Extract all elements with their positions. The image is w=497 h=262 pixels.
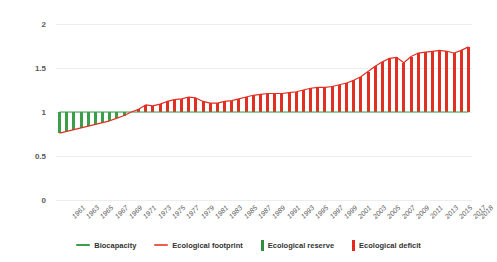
x-axis-tick-label: 1983 [228, 204, 244, 220]
x-axis-tick-label: 1991 [285, 204, 301, 220]
y-axis-tick-label: 0 [42, 196, 46, 205]
plot-area [56, 24, 472, 200]
x-axis-tick-label: 1999 [343, 204, 359, 220]
x-axis-tick-label: 1985 [242, 204, 258, 220]
chart-legend: BiocapacityEcological footprintEcologica… [0, 236, 497, 254]
y-axis-tick-label: 1 [42, 108, 46, 117]
x-axis-tick-label: 1981 [214, 204, 230, 220]
y-axis-tick-label: 1.5 [35, 64, 46, 73]
legend-item-label: Ecological footprint [172, 241, 242, 250]
x-axis-tick-label: 1969 [128, 204, 144, 220]
x-axis-tick-label: 2007 [400, 204, 416, 220]
line-overlay [56, 24, 472, 200]
x-axis-tick-label: 2009 [414, 204, 430, 220]
x-axis-tick-label: 1973 [156, 204, 172, 220]
x-axis-tick-label: 1993 [300, 204, 316, 220]
x-axis-tick-label: 1961 [70, 204, 86, 220]
legend-line-swatch-icon [76, 244, 90, 246]
legend-item[interactable]: Ecological reserve [261, 240, 334, 251]
ecological-footprint-chart: 00.511.52 196119631965196719691971197319… [0, 0, 497, 262]
x-axis-tick-label: 2003 [371, 204, 387, 220]
legend-item[interactable]: Ecological deficit [352, 240, 421, 251]
x-axis-tick-label: 1975 [171, 204, 187, 220]
legend-item-label: Ecological reserve [268, 241, 334, 250]
legend-item[interactable]: Ecological footprint [154, 241, 242, 250]
x-axis-tick-label: 1995 [314, 204, 330, 220]
legend-item-label: Biocapacity [94, 241, 136, 250]
x-axis-tick-label: 1967 [113, 204, 129, 220]
x-axis-labels: 1961196319651967196919711973197519771979… [56, 200, 472, 238]
legend-bar-swatch-icon [261, 240, 264, 251]
legend-item[interactable]: Biocapacity [76, 241, 136, 250]
x-axis-tick-label: 1977 [185, 204, 201, 220]
line-ecological-footprint [60, 47, 469, 133]
legend-bar-swatch-icon [352, 240, 355, 251]
y-axis-tick-label: 0.5 [35, 152, 46, 161]
x-axis-tick-label: 2013 [443, 204, 459, 220]
x-axis-tick-label: 1963 [84, 204, 100, 220]
x-axis-tick-label: 1987 [257, 204, 273, 220]
x-axis-tick-label: 2005 [386, 204, 402, 220]
x-axis-tick-label: 2015 [457, 204, 473, 220]
x-axis-tick-label: 1971 [142, 204, 158, 220]
x-axis-tick-label: 1965 [99, 204, 115, 220]
legend-line-swatch-icon [154, 244, 168, 246]
y-axis-labels: 00.511.52 [0, 24, 52, 200]
x-axis-tick-label: 1989 [271, 204, 287, 220]
y-axis-tick-label: 2 [42, 20, 46, 29]
x-axis-tick-label: 1997 [328, 204, 344, 220]
x-axis-tick-label: 1979 [199, 204, 215, 220]
legend-item-label: Ecological deficit [359, 241, 421, 250]
x-axis-tick-label: 2011 [429, 204, 445, 220]
x-axis-tick-label: 2001 [357, 204, 373, 220]
